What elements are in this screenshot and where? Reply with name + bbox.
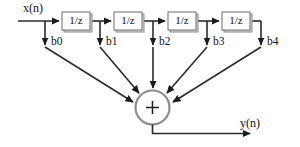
fir-filter-diagram: x(n) y(n) 1/z 1/z 1/z 1/z b0 b1 b2 b3 b4 (0, 0, 300, 147)
tap-label-b1: b1 (106, 36, 118, 48)
tap-label-b3: b3 (213, 36, 225, 48)
branch-b0-to-sum (45, 47, 133, 102)
delay-block-z2-label: 1/z (114, 15, 142, 26)
branch-b3-to-sum (167, 47, 207, 93)
summing-junction (136, 91, 170, 125)
tap-label-b2: b2 (159, 36, 171, 48)
branch-b4-to-sum (173, 47, 261, 102)
delay-block-z4-label: 1/z (222, 15, 250, 26)
output-label: y(n) (240, 117, 260, 129)
branch-b1-to-sum (100, 47, 139, 93)
tap-label-b4: b4 (267, 36, 279, 48)
delay-block-z3-label: 1/z (168, 15, 196, 26)
input-label: x(n) (23, 2, 43, 14)
output-wire (153, 125, 251, 134)
tap-label-b0: b0 (51, 36, 63, 48)
delay-block-z1-label: 1/z (62, 15, 90, 26)
